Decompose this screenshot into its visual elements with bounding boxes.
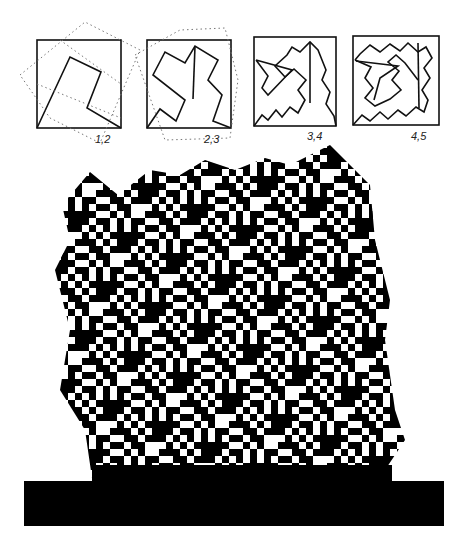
spiral-mosaic-pattern: [0, 0, 463, 540]
figure: 1,2 2,3 3,4 4,5: [0, 0, 463, 540]
